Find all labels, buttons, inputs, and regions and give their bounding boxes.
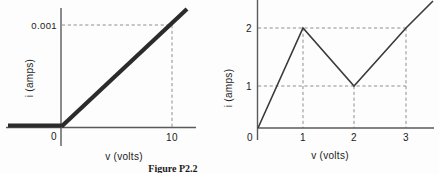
figure-container: 0 10 0.001 v (volts) i (amps) 0 1 2 3 1 … — [0, 0, 439, 173]
figure-caption: Figure P2.2 — [113, 163, 233, 173]
left-chart: 0 10 0.001 v (volts) i (amps) — [0, 0, 220, 173]
right-origin-label: 0 — [247, 132, 253, 143]
left-xtick-10: 10 — [166, 132, 178, 143]
right-curve-piecewise — [258, 1, 433, 128]
right-ytick-1: 1 — [246, 81, 252, 92]
right-chart: 0 1 2 3 1 2 v (volts) i (amps) — [220, 0, 439, 173]
left-curve-forward-segment — [62, 9, 188, 127]
right-xtick-3: 3 — [403, 132, 409, 143]
right-y-axis-label: i (amps) — [223, 69, 234, 108]
left-origin-label: 0 — [51, 131, 57, 142]
right-x-axis-label: v (volts) — [311, 150, 349, 161]
left-ytick-0001: 0.001 — [31, 20, 57, 31]
right-ytick-2: 2 — [246, 23, 252, 34]
left-y-axis-label: i (amps) — [24, 59, 35, 98]
left-x-axis-label: v (volts) — [105, 151, 143, 162]
right-xtick-1: 1 — [300, 132, 306, 143]
right-xtick-2: 2 — [351, 132, 357, 143]
